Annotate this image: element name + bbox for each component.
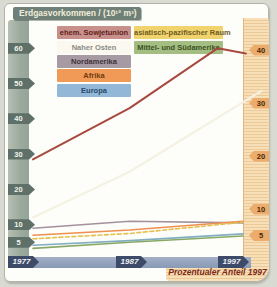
almanac-chart-page: Prozentualer Anteil 1997 605040302010540… [0,0,277,287]
line-chart-canvas [0,0,277,287]
series-line-sowjetunion [33,48,246,159]
series-line-naher-osten [33,91,262,218]
series-line-europa [33,234,243,245]
series-line-mittel-sued [33,236,243,248]
